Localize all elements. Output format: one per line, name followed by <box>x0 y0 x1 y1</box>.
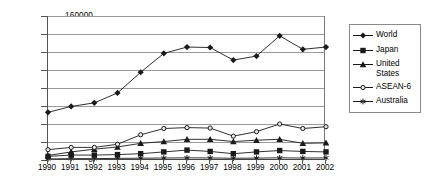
x-axis-tick-label: 1991 <box>57 163 83 172</box>
x-axis-tick-mark <box>186 160 187 164</box>
data-point-diamond <box>207 44 213 50</box>
x-axis-tick-label: 1995 <box>150 163 176 172</box>
data-point-circle <box>278 122 282 126</box>
x-axis-tick-mark <box>302 160 303 164</box>
legend-item-asean-6[interactable]: ASEAN-6 <box>352 82 417 93</box>
data-point-diamond <box>300 46 306 52</box>
data-point-diamond <box>45 109 51 115</box>
data-point-circle <box>301 126 305 130</box>
x-axis-tick-mark <box>232 160 233 164</box>
x-axis-tick-mark <box>163 160 164 164</box>
x-axis-tick-mark <box>256 160 257 164</box>
plot-area <box>47 16 325 160</box>
x-axis-tick-mark <box>140 160 141 164</box>
data-point-diamond <box>230 57 236 63</box>
x-axis-tick-label: 1992 <box>80 163 106 172</box>
data-point-circle <box>361 85 365 89</box>
x-axis-tick-label: 2001 <box>289 163 315 172</box>
data-point-square <box>254 149 259 154</box>
data-point-circle <box>231 134 235 138</box>
x-axis-tick-mark <box>279 160 280 164</box>
data-point-square <box>161 149 166 154</box>
data-point-square <box>300 149 305 154</box>
legend-marker-triangle-icon <box>352 59 374 70</box>
x-axis-tick-mark <box>325 160 326 164</box>
x-axis-tick-mark <box>47 160 48 164</box>
data-point-square <box>360 47 365 52</box>
data-point-diamond <box>323 44 329 50</box>
legend-label: Japan <box>374 45 398 55</box>
x-axis-tick-label: 1990 <box>34 163 60 172</box>
x-axis-tick-label: 2002 <box>312 163 338 172</box>
x-axis-tick-label: 1994 <box>127 163 153 172</box>
x-axis-tick-label: 1996 <box>173 163 199 172</box>
data-point-square <box>323 149 328 154</box>
series-layer <box>48 16 326 160</box>
x-axis-tick-label: 1999 <box>243 163 269 172</box>
x-axis-tick-mark <box>117 160 118 164</box>
data-point-square <box>277 148 282 153</box>
x-axis-tick-label: 2000 <box>266 163 292 172</box>
x-axis-tick-label: 1997 <box>196 163 222 172</box>
data-point-diamond <box>184 44 190 50</box>
data-point-circle <box>92 145 96 149</box>
data-point-circle <box>69 145 73 149</box>
legend-marker-circle-icon <box>352 82 374 93</box>
data-point-diamond <box>91 100 97 106</box>
chart-legend: WorldJapanUnited StatesASEAN-6Australia <box>349 24 421 113</box>
data-point-circle <box>115 142 119 146</box>
legend-label: ASEAN-6 <box>374 82 411 92</box>
data-point-circle <box>208 126 212 130</box>
data-point-circle <box>254 130 258 134</box>
data-point-square <box>184 147 189 152</box>
legend-marker-asterisk-icon <box>352 96 374 107</box>
legend-marker-square-icon <box>352 45 374 56</box>
data-point-diamond <box>68 103 74 109</box>
legend-label: World <box>374 30 397 40</box>
data-point-circle <box>185 126 189 130</box>
legend-label: United States <box>374 59 400 78</box>
legend-item-japan[interactable]: Japan <box>352 45 417 56</box>
legend-item-australia[interactable]: Australia <box>352 96 417 107</box>
data-point-circle <box>46 148 50 152</box>
data-point-circle <box>324 125 328 129</box>
legend-marker-diamond-icon <box>352 30 374 41</box>
legend-label: Australia <box>374 96 408 106</box>
x-axis-tick-mark <box>93 160 94 164</box>
x-axis-tick-mark <box>209 160 210 164</box>
x-axis-tick-label: 1998 <box>219 163 245 172</box>
x-axis-tick-mark <box>70 160 71 164</box>
chart-figure: 0200004000060000800001000001200001400001… <box>0 0 424 196</box>
legend-item-united-states[interactable]: United States <box>352 59 417 78</box>
data-point-circle <box>139 133 143 137</box>
x-axis-tick-label: 1993 <box>104 163 130 172</box>
legend-item-world[interactable]: World <box>352 30 417 41</box>
data-point-diamond <box>360 32 366 38</box>
data-point-square <box>207 149 212 154</box>
data-point-circle <box>162 126 166 130</box>
